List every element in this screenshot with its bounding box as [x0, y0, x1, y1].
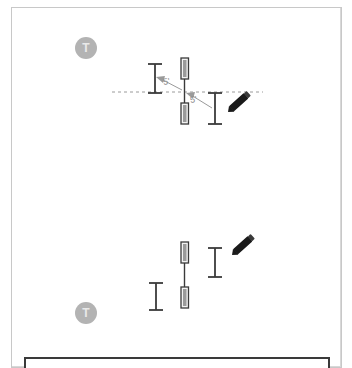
extension-marker-upper-right[interactable]: [208, 93, 222, 124]
extension-marker-lower-left[interactable]: [149, 283, 163, 310]
wall-segment-lower-bottom[interactable]: [181, 287, 189, 308]
wall-segment-lower-top[interactable]: [181, 242, 189, 263]
wall-segment-upper-top[interactable]: [181, 58, 189, 79]
app-root: T T 5' 5': [0, 0, 352, 368]
dimension-label-right[interactable]: 5': [189, 94, 197, 105]
text-tool-badge-top[interactable]: T: [75, 37, 97, 59]
wall-segment-upper-bottom[interactable]: [181, 103, 189, 124]
bottom-toolbar-panel[interactable]: [24, 357, 330, 368]
dimension-label-left[interactable]: 5': [162, 76, 170, 87]
text-tool-badge-bottom[interactable]: T: [75, 302, 97, 324]
pencil-cursor-lower[interactable]: [229, 233, 255, 258]
drawing-canvas[interactable]: [0, 0, 352, 368]
pencil-cursor-upper[interactable]: [225, 90, 251, 115]
extension-marker-lower-right[interactable]: [208, 248, 222, 277]
